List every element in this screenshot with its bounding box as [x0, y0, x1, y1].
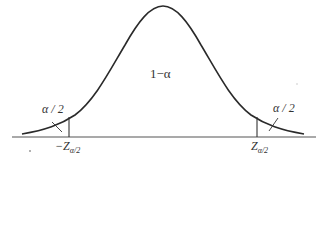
left-critical-subscript: α/2 [70, 146, 80, 155]
right-critical-subscript: α/2 [258, 146, 268, 155]
right-tail-label: α / 2 [273, 101, 295, 116]
stray-dot-right [296, 83, 297, 84]
center-area-label: 1−α [150, 66, 171, 82]
left-critical-label: −Zα/2 [55, 139, 80, 155]
stray-dot [29, 150, 31, 152]
right-critical-label: Zα/2 [251, 139, 268, 155]
left-tail-label: α / 2 [42, 102, 64, 117]
right-critical-symbol: Z [251, 139, 258, 153]
left-critical-symbol: −Z [55, 139, 70, 153]
